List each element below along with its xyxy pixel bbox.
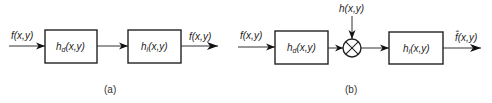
panel-a-input-label: f(x,y) [11, 30, 33, 41]
panel-b-multiplier-input-label: h(x,y) [339, 3, 364, 14]
panel-b-caption: (b) [345, 84, 357, 95]
panel-b-input-label: f(x,y) [240, 30, 262, 41]
panel-b-output-label: f̂(x,y) [455, 30, 477, 43]
panel-b-block-hi-label: hi(x,y) [403, 43, 430, 55]
panel-b: f(x,y) hd(x,y) h(x,y) hi(x,y) f̂(x,y) (b… [238, 3, 481, 95]
panel-a-output-label: f(x,y) [189, 31, 211, 42]
block-diagram: f(x,y) hd(x,y) hi(x,y) f(x,y) (a) f(x,y)… [0, 0, 492, 103]
panel-a-block-hd-label: hd(x,y) [56, 41, 85, 53]
panel-b-block-hd-label: hd(x,y) [287, 42, 316, 54]
panel-a-caption: (a) [104, 84, 116, 95]
multiply-circle-icon [343, 39, 361, 57]
panel-a-block-hi-label: hi(x,y) [141, 41, 168, 53]
panel-a: f(x,y) hd(x,y) hi(x,y) f(x,y) (a) [9, 30, 218, 95]
